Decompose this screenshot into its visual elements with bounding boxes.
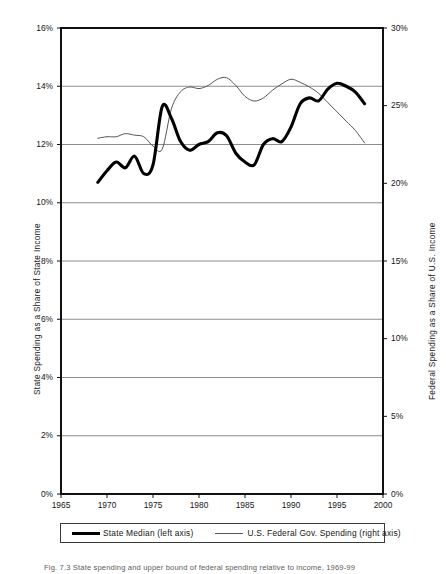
- left-axis-tick-label: 2%: [27, 431, 53, 439]
- left-axis-tick-label: 8%: [27, 257, 53, 265]
- axis-ticks: [57, 28, 387, 498]
- x-axis-tick-label: 1995: [317, 500, 357, 510]
- legend-label-state-median: State Median (left axis): [103, 528, 193, 538]
- left-axis-title: State Spending as a Share of State Incom…: [33, 223, 42, 395]
- series-line-state-median: [98, 83, 365, 182]
- x-axis-tick-label: 1965: [41, 500, 81, 510]
- left-axis-tick-label: 10%: [27, 198, 53, 206]
- figure-caption-text: State spending and upper bound of federa…: [73, 563, 355, 572]
- x-axis-tick-label: 1990: [271, 500, 311, 510]
- x-axis-tick-label: 1980: [179, 500, 219, 510]
- left-axis-tick-label: 4%: [27, 373, 53, 381]
- right-axis-tick-label: 0%: [391, 490, 419, 498]
- gridlines: [61, 28, 383, 436]
- x-axis-tick-label: 1975: [133, 500, 173, 510]
- right-axis-title: Federal Spending as a Share of U.S. Inco…: [428, 222, 437, 400]
- figure-caption: Fig. 7.3 State spending and upper bound …: [44, 563, 414, 572]
- figure-state-vs-federal-spending: State Spending as a Share of State Incom…: [0, 0, 446, 574]
- legend-item-federal-spending: U.S. Federal Gov. Spending (right axis): [215, 528, 400, 538]
- left-axis-tick-label: 6%: [27, 315, 53, 323]
- left-axis-tick-label: 12%: [27, 140, 53, 148]
- legend-item-state-median: State Median (left axis): [72, 528, 193, 538]
- right-axis-tick-label: 10%: [391, 334, 419, 342]
- right-axis-tick-label: 25%: [391, 101, 419, 109]
- chart-legend: State Median (left axis) U.S. Federal Go…: [60, 523, 385, 543]
- legend-swatch-federal-spending: [215, 533, 243, 534]
- series-line-federal-spending: [98, 77, 365, 151]
- figure-caption-number: Fig. 7.3: [44, 563, 71, 572]
- x-axis-tick-label: 2000: [363, 500, 403, 510]
- left-axis-tick-label: 0%: [27, 490, 53, 498]
- left-axis-tick-label: 16%: [27, 24, 53, 32]
- legend-label-federal-spending: U.S. Federal Gov. Spending (right axis): [247, 528, 400, 538]
- right-axis-tick-label: 30%: [391, 24, 419, 32]
- right-axis-tick-label: 5%: [391, 412, 419, 420]
- x-axis-tick-label: 1985: [225, 500, 265, 510]
- right-axis-tick-label: 15%: [391, 257, 419, 265]
- x-axis-tick-label: 1970: [87, 500, 127, 510]
- legend-swatch-state-median: [72, 532, 100, 535]
- left-axis-tick-label: 14%: [27, 82, 53, 90]
- chart-plot-area: [0, 0, 446, 574]
- right-axis-tick-label: 20%: [391, 179, 419, 187]
